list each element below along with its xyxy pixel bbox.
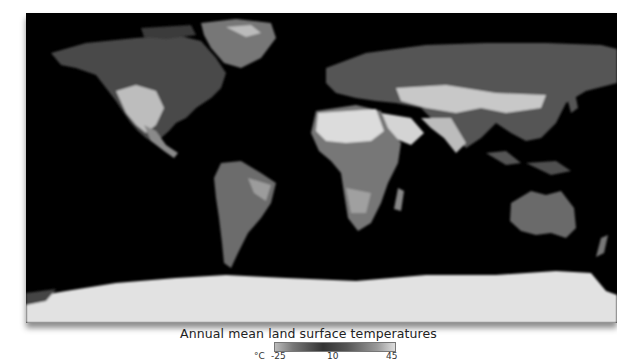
world-temperature-map [26,13,617,323]
colorbar-unit: °C [254,351,265,359]
colorbar-tick-max: 45 [386,351,397,359]
colorbar-tick-min: -25 [271,351,286,359]
figure-caption: Annual mean land surface temperatures [0,326,617,341]
antarctica [26,271,617,323]
australia [510,191,576,238]
south-america [214,161,276,268]
colorbar-tick-mid: 10 [327,351,338,359]
map-graphic [26,13,617,323]
